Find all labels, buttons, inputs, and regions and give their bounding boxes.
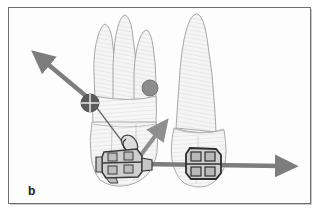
right-bracket	[186, 148, 221, 179]
force-vectors	[44, 61, 282, 166]
illustration-canvas	[0, 0, 319, 213]
panel-label: b	[28, 184, 35, 198]
figure-panel: b	[0, 0, 319, 213]
center-of-resistance-marker	[81, 94, 99, 112]
center-of-rotation-marker	[142, 80, 158, 96]
arrow-up-left	[44, 61, 92, 101]
